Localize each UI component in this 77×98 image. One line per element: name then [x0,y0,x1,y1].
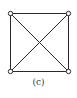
figure-caption: (c) [0,77,77,88]
graph-edges [11,14,69,72]
vertex-bottom-right [66,69,70,73]
vertex-top-right [66,11,70,15]
vertex-bottom-left [8,69,12,73]
vertex-top-left [8,11,12,15]
